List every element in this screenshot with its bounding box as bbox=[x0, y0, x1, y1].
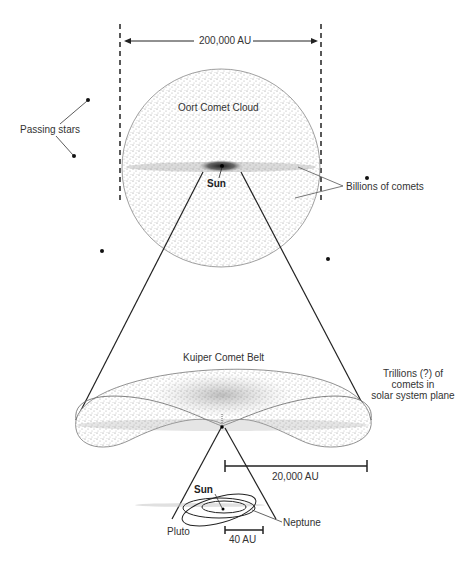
oort-sun-label: Sun bbox=[207, 178, 226, 189]
oort-scale-label: 200,000 AU bbox=[197, 35, 253, 46]
kuiper-comet-belt bbox=[76, 369, 372, 447]
oort-cloud-label: Oort Comet Cloud bbox=[178, 102, 259, 113]
oort-cloud-sphere bbox=[122, 69, 320, 267]
diagram-canvas bbox=[0, 0, 465, 568]
inner-sun-label: Sun bbox=[194, 484, 213, 495]
pluto-label: Pluto bbox=[167, 526, 190, 537]
trillions-of-comets-label: Trillions (?) of comets in solar system … bbox=[358, 368, 465, 401]
inner-scale-label: 40 AU bbox=[229, 534, 256, 545]
trillions-line-2: comets in bbox=[358, 379, 465, 390]
scale-bar-40-au bbox=[225, 526, 263, 534]
neptune-label: Neptune bbox=[283, 517, 321, 528]
kuiper-belt-label: Kuiper Comet Belt bbox=[183, 352, 264, 363]
kuiper-scale-label: 20,000 AU bbox=[272, 471, 319, 482]
billions-of-comets-label: Billions of comets bbox=[346, 181, 424, 192]
passing-stars-label: Passing stars bbox=[20, 124, 80, 135]
trillions-line-1: Trillions (?) of bbox=[358, 368, 465, 379]
trillions-line-3: solar system plane bbox=[358, 390, 465, 401]
